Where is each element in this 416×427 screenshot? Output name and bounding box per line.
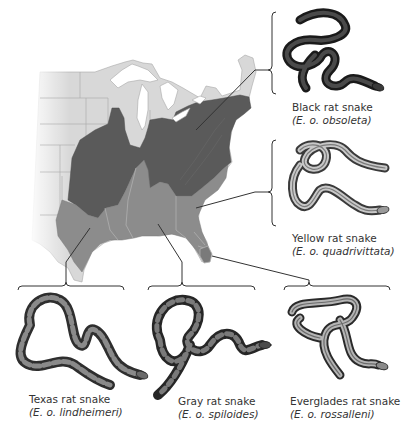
snake-everglades-rat-snake — [292, 299, 389, 375]
scientific-name: (E. o. obsoleta) — [292, 114, 373, 127]
scientific-name: (E. o. quadrivittata) — [292, 245, 395, 258]
snake-gray-rat-snake — [157, 300, 271, 395]
common-name: Yellow rat snake — [292, 232, 395, 245]
eastern-us-map — [28, 55, 256, 290]
label-gray-rat-snake: Gray rat snake (E. o. spiloides) — [178, 395, 259, 421]
bracket-black — [268, 12, 276, 94]
range-map-figure — [0, 0, 416, 427]
label-yellow-rat-snake: Yellow rat snake (E. o. quadrivittata) — [292, 232, 395, 258]
common-name: Gray rat snake — [178, 395, 259, 408]
bracket-yellow — [268, 140, 276, 226]
scientific-name: (E. o. lindheimeri) — [29, 406, 123, 419]
connector-everglades — [212, 256, 309, 282]
scientific-name: (E. o. spiloides) — [178, 408, 259, 421]
label-everglades-rat-snake: Everglades rat snake (E. o. rossalleni) — [290, 395, 400, 421]
scientific-name: (E. o. rossalleni) — [290, 408, 400, 421]
bracket-gray — [148, 282, 255, 290]
snake-yellow-rat-snake — [292, 145, 389, 215]
snake-black-rat-snake — [287, 13, 385, 93]
common-name: Texas rat snake — [29, 393, 123, 406]
snake-texas-rat-snake — [21, 298, 149, 385]
common-name: Everglades rat snake — [290, 395, 400, 408]
common-name: Black rat snake — [292, 101, 373, 114]
label-texas-rat-snake: Texas rat snake (E. o. lindheimeri) — [29, 393, 123, 419]
bracket-everglades — [284, 282, 390, 290]
label-black-rat-snake: Black rat snake (E. o. obsoleta) — [292, 101, 373, 127]
